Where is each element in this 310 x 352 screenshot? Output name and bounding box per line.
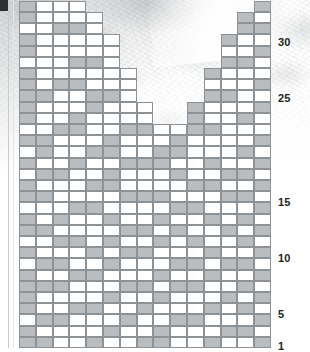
chart-cell[interactable] bbox=[103, 79, 120, 90]
chart-cell[interactable] bbox=[103, 281, 120, 292]
chart-cell[interactable] bbox=[53, 180, 70, 191]
chart-cell[interactable] bbox=[36, 12, 53, 23]
chart-cell[interactable] bbox=[170, 146, 187, 157]
chart-cell[interactable] bbox=[204, 314, 221, 325]
chart-cell[interactable] bbox=[86, 57, 103, 68]
chart-cell[interactable] bbox=[221, 46, 238, 57]
chart-cell[interactable] bbox=[254, 102, 271, 113]
chart-cell[interactable] bbox=[137, 236, 154, 247]
chart-cell[interactable] bbox=[53, 191, 70, 202]
chart-cell[interactable] bbox=[69, 270, 86, 281]
chart-cell[interactable] bbox=[36, 79, 53, 90]
chart-cell[interactable] bbox=[120, 270, 137, 281]
chart-cell[interactable] bbox=[204, 124, 221, 135]
chart-cell[interactable] bbox=[221, 270, 238, 281]
chart-cell[interactable] bbox=[36, 90, 53, 101]
chart-cell[interactable] bbox=[254, 158, 271, 169]
chart-cell[interactable] bbox=[120, 258, 137, 269]
chart-cell[interactable] bbox=[103, 34, 120, 45]
chart-cell[interactable] bbox=[36, 247, 53, 258]
chart-cell[interactable] bbox=[53, 292, 70, 303]
chart-cell[interactable] bbox=[237, 337, 254, 348]
chart-cell[interactable] bbox=[187, 214, 204, 225]
chart-cell[interactable] bbox=[170, 191, 187, 202]
chart-cell[interactable] bbox=[237, 236, 254, 247]
chart-cell[interactable] bbox=[254, 281, 271, 292]
chart-cell[interactable] bbox=[237, 113, 254, 124]
chart-cell[interactable] bbox=[53, 1, 70, 12]
chart-cell[interactable] bbox=[221, 34, 238, 45]
chart-cell[interactable] bbox=[19, 281, 36, 292]
chart-cell[interactable] bbox=[53, 202, 70, 213]
chart-cell[interactable] bbox=[254, 90, 271, 101]
chart-cell[interactable] bbox=[19, 57, 36, 68]
chart-cell[interactable] bbox=[204, 225, 221, 236]
chart-cell[interactable] bbox=[237, 247, 254, 258]
chart-cell[interactable] bbox=[137, 281, 154, 292]
chart-cell[interactable] bbox=[170, 236, 187, 247]
chart-cell[interactable] bbox=[19, 90, 36, 101]
chart-cell[interactable] bbox=[103, 124, 120, 135]
chart-cell[interactable] bbox=[237, 270, 254, 281]
chart-cell[interactable] bbox=[19, 247, 36, 258]
chart-cell[interactable] bbox=[204, 191, 221, 202]
chart-cell[interactable] bbox=[36, 169, 53, 180]
chart-cell[interactable] bbox=[237, 281, 254, 292]
chart-cell[interactable] bbox=[69, 236, 86, 247]
chart-cell[interactable] bbox=[221, 135, 238, 146]
chart-cell[interactable] bbox=[237, 169, 254, 180]
chart-cell[interactable] bbox=[120, 225, 137, 236]
chart-cell[interactable] bbox=[187, 303, 204, 314]
chart-cell[interactable] bbox=[204, 113, 221, 124]
chart-cell[interactable] bbox=[137, 135, 154, 146]
chart-cell[interactable] bbox=[36, 202, 53, 213]
chart-cell[interactable] bbox=[137, 337, 154, 348]
chart-cell[interactable] bbox=[237, 90, 254, 101]
chart-cell[interactable] bbox=[170, 303, 187, 314]
chart-cell[interactable] bbox=[237, 314, 254, 325]
chart-cell[interactable] bbox=[69, 12, 86, 23]
chart-cell[interactable] bbox=[204, 135, 221, 146]
chart-cell[interactable] bbox=[204, 236, 221, 247]
chart-cell[interactable] bbox=[237, 124, 254, 135]
chart-cell[interactable] bbox=[19, 314, 36, 325]
chart-cell[interactable] bbox=[19, 337, 36, 348]
chart-cell[interactable] bbox=[36, 135, 53, 146]
chart-cell[interactable] bbox=[187, 225, 204, 236]
chart-cell[interactable] bbox=[187, 113, 204, 124]
chart-cell[interactable] bbox=[86, 113, 103, 124]
chart-cell[interactable] bbox=[120, 247, 137, 258]
chart-cell[interactable] bbox=[53, 57, 70, 68]
chart-cell[interactable] bbox=[221, 281, 238, 292]
chart-cell[interactable] bbox=[120, 236, 137, 247]
chart-cell[interactable] bbox=[153, 292, 170, 303]
chart-cell[interactable] bbox=[204, 169, 221, 180]
chart-cell[interactable] bbox=[254, 191, 271, 202]
chart-cell[interactable] bbox=[204, 247, 221, 258]
chart-cell[interactable] bbox=[170, 337, 187, 348]
chart-cell[interactable] bbox=[254, 225, 271, 236]
chart-cell[interactable] bbox=[187, 102, 204, 113]
chart-cell[interactable] bbox=[86, 202, 103, 213]
chart-cell[interactable] bbox=[69, 124, 86, 135]
chart-cell[interactable] bbox=[187, 281, 204, 292]
chart-cell[interactable] bbox=[153, 135, 170, 146]
chart-cell[interactable] bbox=[254, 113, 271, 124]
chart-cell[interactable] bbox=[170, 214, 187, 225]
chart-cell[interactable] bbox=[187, 135, 204, 146]
chart-cell[interactable] bbox=[237, 68, 254, 79]
chart-cell[interactable] bbox=[36, 314, 53, 325]
chart-cell[interactable] bbox=[120, 326, 137, 337]
chart-cell[interactable] bbox=[103, 337, 120, 348]
chart-cell[interactable] bbox=[86, 236, 103, 247]
chart-cell[interactable] bbox=[137, 180, 154, 191]
chart-cell[interactable] bbox=[53, 113, 70, 124]
chart-cell[interactable] bbox=[254, 23, 271, 34]
chart-cell[interactable] bbox=[187, 247, 204, 258]
chart-cell[interactable] bbox=[103, 135, 120, 146]
chart-cell[interactable] bbox=[237, 225, 254, 236]
chart-cell[interactable] bbox=[254, 326, 271, 337]
chart-cell[interactable] bbox=[19, 79, 36, 90]
chart-cell[interactable] bbox=[53, 158, 70, 169]
chart-cell[interactable] bbox=[19, 23, 36, 34]
